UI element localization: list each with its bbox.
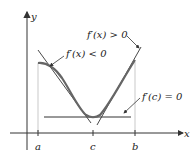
tick-label-b: b xyxy=(132,141,138,152)
arrow-decreasing xyxy=(50,56,64,66)
arrow-increasing xyxy=(127,36,139,48)
tick-label-c: c xyxy=(90,141,96,152)
arrow-critical xyxy=(124,98,140,113)
derivative-diagram: y x a c b f′(x) < 0 f′(x) > 0 f′(c) = 0 xyxy=(0,0,190,158)
y-axis-label: y xyxy=(30,11,37,22)
label-increasing: f′(x) > 0 xyxy=(86,29,128,40)
x-axis-label: x xyxy=(184,128,190,139)
label-decreasing: f′(x) < 0 xyxy=(65,48,107,59)
tick-label-a: a xyxy=(35,141,41,152)
label-critical: f′(c) = 0 xyxy=(141,91,183,102)
function-curve xyxy=(38,60,135,117)
